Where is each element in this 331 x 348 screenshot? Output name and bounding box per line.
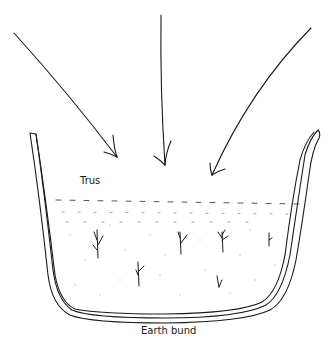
- soil-dots: [69, 224, 275, 295]
- plant-sprigs: [93, 230, 272, 287]
- plant-icon: [136, 262, 144, 286]
- left-arrow-icon: [14, 33, 117, 157]
- earth-bund-label: Earth bund: [141, 325, 196, 336]
- right-arrow-icon: [210, 28, 311, 175]
- water-line: [56, 200, 300, 222]
- plant-icon: [178, 232, 187, 254]
- plant-icon: [218, 230, 228, 252]
- diagram-canvas: Trus Earth bund: [0, 0, 331, 348]
- plant-icon: [269, 233, 272, 246]
- trus-label: Trus: [80, 175, 100, 186]
- center-arrow-icon: [154, 15, 171, 165]
- plant-icon: [93, 230, 103, 258]
- diagram-svg: [0, 0, 331, 348]
- earth-bund-outline: [30, 130, 320, 323]
- plant-icon: [217, 276, 222, 287]
